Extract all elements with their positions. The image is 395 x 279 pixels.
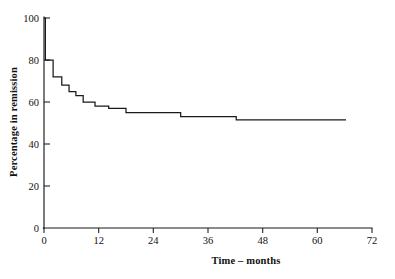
x-tick-label-72: 72 — [367, 235, 378, 246]
x-tick-label-0: 0 — [41, 235, 46, 246]
x-axis-title: Time – months — [212, 255, 281, 266]
x-tick-label-24: 24 — [148, 235, 159, 246]
x-axis-ticks — [44, 228, 372, 233]
x-tick-label-36: 36 — [203, 235, 214, 246]
y-axis-title: Percentage in remission — [8, 67, 19, 177]
x-axis-tick-labels: 0 12 24 36 48 60 72 — [41, 235, 377, 246]
y-axis-tick-labels: 100 80 60 40 20 0 — [23, 13, 39, 234]
y-tick-label-40: 40 — [29, 139, 40, 150]
survival-step-curve — [44, 18, 346, 120]
y-tick-label-60: 60 — [29, 97, 40, 108]
km-survival-chart: 100 80 60 40 20 0 0 12 24 36 48 60 72 — [0, 0, 395, 279]
y-tick-label-100: 100 — [23, 13, 39, 24]
x-tick-label-12: 12 — [93, 235, 104, 246]
chart-container: 100 80 60 40 20 0 0 12 24 36 48 60 72 — [0, 0, 395, 279]
y-tick-label-0: 0 — [34, 223, 39, 234]
y-tick-label-80: 80 — [29, 55, 40, 66]
x-tick-label-60: 60 — [312, 235, 323, 246]
y-tick-label-20: 20 — [29, 181, 40, 192]
x-tick-label-48: 48 — [257, 235, 268, 246]
